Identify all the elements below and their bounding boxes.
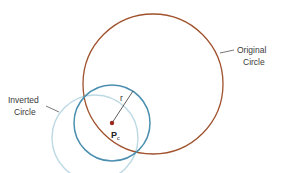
center-point — [110, 121, 114, 125]
original-circle — [83, 14, 223, 154]
original-leader-line — [220, 50, 234, 53]
inverted-label-line2: Circle — [14, 107, 36, 117]
center-label-subscript: c — [117, 135, 120, 141]
original-label-line1: Original — [237, 45, 266, 55]
inverted-leader-line — [46, 106, 59, 112]
inverted-circle — [52, 95, 138, 173]
original-label-line2: Circle — [243, 57, 265, 67]
inverted-label-line1: Inverted — [8, 95, 39, 105]
radius-label: r — [120, 93, 123, 103]
circle-inversion-diagram: Original Circle Inverted Circle r P c — [0, 0, 284, 173]
